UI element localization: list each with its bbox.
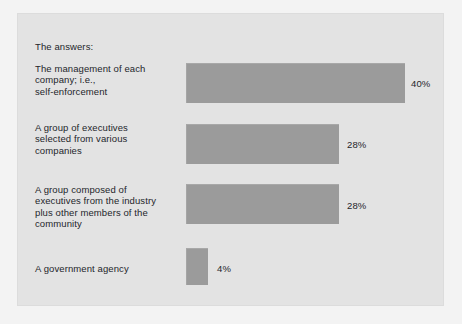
bar-category-label: A group composed of executives from the … <box>35 184 156 230</box>
bar-category-label: The management of each company; i.e., se… <box>35 63 145 97</box>
bar-category-label: A government agency <box>35 263 129 274</box>
bar-segment[interactable] <box>186 184 339 224</box>
bar-value-label: 28% <box>347 139 366 150</box>
chart-figure: The answers: The management of each comp… <box>0 0 462 324</box>
bar-value-label: 4% <box>217 263 231 274</box>
bar-segment[interactable] <box>186 124 339 164</box>
bar-value-label: 40% <box>411 78 430 89</box>
bar-segment[interactable] <box>186 63 405 103</box>
chart-heading: The answers: <box>35 41 93 52</box>
chart-panel: The answers: The management of each comp… <box>18 14 443 305</box>
bar-value-label: 28% <box>347 200 366 211</box>
bar-category-label: A group of executives selected from vari… <box>35 122 128 156</box>
bar-segment[interactable] <box>186 248 208 285</box>
